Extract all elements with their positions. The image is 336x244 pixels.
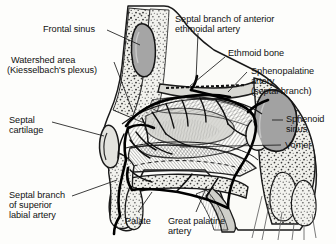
label-watershed-area-line1: Watershed area	[11, 55, 75, 65]
label-sphenoid-sinus-line1: Sphenoid	[286, 114, 324, 124]
label-septal-branch-superior-labial-line2: of superior	[9, 200, 52, 210]
label-vomer: Vomer	[285, 140, 311, 150]
label-watershed-area-line2: (Kiesselbach's plexus)	[7, 65, 97, 75]
label-ethmoid-bone: Ethmoid bone	[228, 48, 284, 58]
label-frontal-sinus: Frontal sinus	[43, 24, 95, 34]
label-palate: Palate	[125, 216, 151, 226]
label-septal-cartilage-line2: cartilage	[9, 125, 43, 135]
label-sphenoid-sinus-line2: sinus	[286, 124, 307, 134]
frontal-sinus-cavity	[131, 24, 155, 77]
label-septal-cartilage-line1: Septal	[9, 115, 35, 125]
anatomical-figure: Frontal sinus Watershed area (Kiesselbac…	[0, 0, 336, 244]
leader-septal-cartilage	[52, 122, 104, 136]
label-septal-branch-superior-labial-line3: labial artery	[9, 210, 56, 220]
label-great-palatine-line2: artery	[168, 226, 191, 236]
label-great-palatine-line1: Great palatine	[168, 216, 225, 226]
label-anterior-ethmoidal-line1: Septal branch of anterior	[175, 14, 274, 24]
lower-lateral-cartilage	[100, 125, 119, 168]
label-sphenopalatine-line2: artery	[251, 76, 274, 86]
label-anterior-ethmoidal-line2: ethmoidal artery	[175, 24, 240, 34]
label-sphenopalatine-line1: Sphenopalatine	[251, 66, 314, 76]
label-sphenopalatine-line3: (septal branch)	[251, 86, 312, 96]
label-septal-branch-superior-labial-line1: Septal branch	[9, 190, 65, 200]
pterygoid-plate-2	[291, 180, 316, 226]
